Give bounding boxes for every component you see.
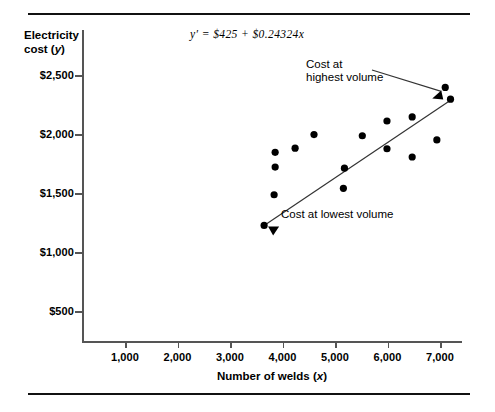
plot-area xyxy=(0,0,495,412)
arrowhead-high xyxy=(432,90,443,99)
data-point xyxy=(340,185,347,192)
figure-container: Electricitycost (y) y′ = $425 + $0.24324… xyxy=(0,0,495,412)
x-axis-title: Number of welds (x) xyxy=(82,370,462,382)
data-point xyxy=(409,153,416,160)
data-point xyxy=(341,165,348,172)
data-point xyxy=(310,131,317,138)
data-point xyxy=(271,191,278,198)
data-point xyxy=(292,145,299,152)
data-point xyxy=(272,149,279,156)
data-point xyxy=(272,163,279,170)
annotation-highest-volume: Cost at highest volume xyxy=(306,58,383,84)
data-point xyxy=(433,136,440,143)
data-point xyxy=(409,113,416,120)
data-point xyxy=(383,145,390,152)
data-point xyxy=(447,96,454,103)
data-point xyxy=(383,117,390,124)
data-point xyxy=(442,84,449,91)
data-point xyxy=(359,132,366,139)
regression-line xyxy=(264,99,453,226)
arrowhead-low xyxy=(268,226,279,235)
annotation-lowest-volume: Cost at lowest volume xyxy=(281,208,394,221)
data-point xyxy=(261,222,268,229)
